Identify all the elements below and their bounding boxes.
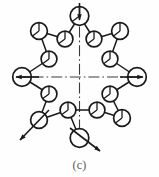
joint-right-lower-mid: [102, 86, 118, 102]
joint-upper-right-inner: [86, 31, 102, 47]
joint-bottom-right-inner: [89, 102, 105, 118]
joint-lower-right-outer: [114, 110, 131, 127]
joint-bottom-loaded: [70, 129, 89, 148]
joint-left-upper-mid: [41, 51, 57, 67]
mechanism-diagram: [0, 0, 159, 154]
joint-bottom-left-inner: [60, 102, 76, 118]
joint-upper-left-outer: [31, 23, 48, 40]
joint-left-lower-mid: [41, 86, 57, 102]
figure-caption: (c): [0, 154, 159, 177]
joint-upper-right-outer: [112, 23, 129, 40]
joint-right-upper-mid: [102, 51, 118, 67]
figure-container: (c): [0, 0, 159, 177]
joint-upper-left-inner: [57, 31, 73, 47]
